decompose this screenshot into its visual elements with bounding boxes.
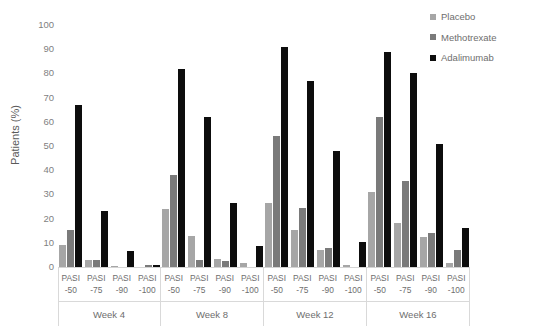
x-tick-label-line1: PASI: [422, 273, 440, 284]
bar: [204, 117, 211, 267]
x-tick-label: PASI-90: [212, 268, 238, 301]
bar-cluster: [110, 25, 136, 267]
legend-item[interactable]: Placebo: [430, 12, 496, 22]
x-tick-label-line2: -50: [65, 285, 77, 296]
x-tick-label: PASI-50: [264, 268, 290, 301]
x-axis-group-label: Week 8: [161, 302, 263, 326]
x-tick-label: PASI-100: [341, 268, 367, 301]
legend-swatch-icon: [430, 14, 436, 20]
x-axis-tick-row: PASI-50PASI-75PASI-90PASI-100: [161, 268, 263, 302]
x-axis-group: PASI-50PASI-75PASI-90PASI-100Week 8: [161, 268, 264, 326]
bar-cluster: [84, 25, 110, 267]
y-tick-label: 50: [30, 141, 54, 151]
x-tick-label-line1: PASI: [371, 273, 389, 284]
bar: [93, 260, 100, 267]
y-tick-label: 90: [30, 44, 54, 54]
bar-cluster: [238, 25, 264, 267]
bar: [127, 251, 134, 267]
bar: [394, 223, 401, 267]
y-tick-label: 100: [30, 20, 54, 30]
x-tick-label-line2: -50: [168, 285, 180, 296]
y-axis-ticks: 1009080706050403020100: [26, 25, 54, 267]
week-group: [161, 25, 264, 267]
legend-item[interactable]: Adalimumab: [430, 53, 496, 63]
y-tick-label: 80: [30, 69, 54, 79]
bar-cluster: [264, 25, 290, 267]
x-axis-tick-row: PASI-50PASI-75PASI-90PASI-100: [264, 268, 366, 302]
bar: [333, 151, 340, 267]
x-axis-group-label: Week 16: [367, 302, 469, 326]
y-axis-title: Patients (%): [2, 0, 28, 270]
x-tick-label: PASI-100: [444, 268, 470, 301]
x-tick-label-line2: -75: [90, 285, 102, 296]
x-tick-label-line1: PASI: [241, 273, 259, 284]
x-tick-label-line1: PASI: [190, 273, 208, 284]
x-tick-label-line1: PASI: [87, 273, 105, 284]
x-tick-label: PASI-100: [135, 268, 161, 301]
week-group: [58, 25, 161, 267]
bar: [178, 69, 185, 267]
bar: [462, 228, 469, 267]
x-tick-label-line2: -50: [374, 285, 386, 296]
x-tick-label-line2: -75: [193, 285, 205, 296]
x-axis-labels: PASI-50PASI-75PASI-90PASI-100Week 4PASI-…: [58, 268, 470, 326]
bar: [291, 230, 298, 268]
x-tick-label-line1: PASI: [293, 273, 311, 284]
bar-cluster: [161, 25, 187, 267]
y-tick-label: 10: [30, 238, 54, 248]
x-axis-group-label: Week 4: [58, 302, 160, 326]
bar: [265, 203, 272, 267]
x-axis-group-label: Week 12: [264, 302, 366, 326]
legend-item[interactable]: Methotrexate: [430, 33, 496, 43]
x-axis-tick-row: PASI-50PASI-75PASI-90PASI-100: [58, 268, 160, 302]
bar: [307, 81, 314, 267]
bar-cluster: [58, 25, 84, 267]
x-tick-label-line2: -100: [139, 285, 156, 296]
bar-cluster: [341, 25, 367, 267]
bar: [59, 245, 66, 267]
x-tick-label: PASI-75: [84, 268, 110, 301]
bar-cluster: [367, 25, 393, 267]
x-tick-label-line2: -90: [219, 285, 231, 296]
x-tick-label-line2: -90: [116, 285, 128, 296]
bar-cluster: [135, 25, 161, 267]
bar: [85, 260, 92, 267]
bar: [273, 136, 280, 267]
bar: [75, 105, 82, 267]
bar: [325, 248, 332, 267]
x-tick-label-line1: PASI: [62, 273, 80, 284]
bar: [162, 209, 169, 267]
x-tick-label-line2: -100: [242, 285, 259, 296]
x-axis-group: PASI-50PASI-75PASI-90PASI-100Week 4: [58, 268, 161, 326]
x-tick-label: PASI-75: [187, 268, 213, 301]
y-tick-label: 40: [30, 165, 54, 175]
week-group: [264, 25, 367, 267]
x-tick-label: PASI-90: [109, 268, 135, 301]
bar: [317, 250, 324, 267]
bar: [299, 208, 306, 267]
x-tick-label-line1: PASI: [113, 273, 131, 284]
y-tick-label: 0: [30, 262, 54, 272]
bar: [101, 211, 108, 267]
x-axis-group: PASI-50PASI-75PASI-90PASI-100Week 12: [264, 268, 367, 326]
bar: [196, 260, 203, 267]
x-tick-label-line2: -100: [448, 285, 465, 296]
bar: [454, 250, 461, 267]
bar-cluster: [290, 25, 316, 267]
x-tick-label: PASI-50: [367, 268, 393, 301]
x-axis-group: PASI-50PASI-75PASI-90PASI-100Week 16: [367, 268, 470, 326]
bar-cluster: [187, 25, 213, 267]
x-tick-label: PASI-50: [58, 268, 84, 301]
y-tick-label: 70: [30, 93, 54, 103]
bar: [420, 237, 427, 267]
legend-label: Methotrexate: [441, 33, 496, 43]
plot-area: [58, 25, 470, 267]
x-tick-label-line1: PASI: [447, 273, 465, 284]
x-tick-label: PASI-90: [315, 268, 341, 301]
bar-cluster: [213, 25, 239, 267]
x-tick-label-line2: -90: [322, 285, 334, 296]
x-tick-label-line1: PASI: [268, 273, 286, 284]
bar: [428, 233, 435, 267]
y-axis-title-text: Patients (%): [9, 105, 21, 165]
x-tick-label-line2: -75: [399, 285, 411, 296]
